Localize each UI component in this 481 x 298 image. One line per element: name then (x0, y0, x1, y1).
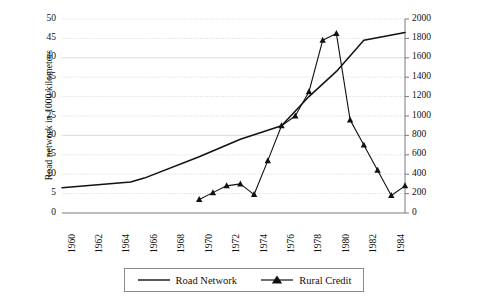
legend-triangle-swatch (260, 274, 294, 286)
left-tick-0: 0 (30, 207, 56, 217)
right-tick-200: 200 (412, 187, 442, 197)
x-tick-1970: 1970 (204, 234, 214, 253)
legend-label-road-network: Road Network (176, 275, 238, 286)
x-tick-1978: 1978 (313, 234, 323, 253)
legend-label-rural-credit: Rural Credit (299, 275, 351, 286)
left-tick-40: 40 (30, 51, 56, 61)
x-tick-1980: 1980 (341, 234, 351, 253)
left-tick-25: 25 (30, 110, 56, 120)
left-tick-45: 45 (30, 32, 56, 42)
legend-item-road-network[interactable]: Road Network (137, 274, 238, 286)
right-tick-1000: 1000 (412, 110, 442, 120)
right-tick-600: 600 (412, 148, 442, 158)
x-tick-1982: 1982 (368, 234, 378, 253)
left-tick-35: 35 (30, 71, 56, 81)
x-tick-1976: 1976 (286, 234, 296, 253)
plot-area (62, 19, 405, 213)
x-tick-1968: 1968 (176, 234, 186, 253)
x-tick-1972: 1972 (231, 234, 241, 253)
right-tick-2000: 2000 (412, 13, 442, 23)
x-tick-1966: 1966 (149, 234, 159, 253)
left-tick-15: 15 (30, 148, 56, 158)
legend-line-swatch (137, 274, 171, 286)
x-tick-1960: 1960 (67, 234, 77, 253)
series-road-network (62, 33, 405, 188)
left-tick-5: 5 (30, 187, 56, 197)
right-tick-1800: 1800 (412, 32, 442, 42)
x-tick-1962: 1962 (94, 234, 104, 253)
right-tick-1400: 1400 (412, 71, 442, 81)
chart-legend: Road Network Rural Credit (124, 268, 364, 292)
x-tick-1984: 1984 (396, 234, 406, 253)
left-tick-20: 20 (30, 129, 56, 139)
right-tick-400: 400 (412, 168, 442, 178)
x-tick-1964: 1964 (121, 234, 131, 253)
right-tick-1200: 1200 (412, 90, 442, 100)
x-tick-1974: 1974 (259, 234, 269, 253)
legend-item-rural-credit[interactable]: Rural Credit (260, 274, 351, 286)
left-tick-10: 10 (30, 168, 56, 178)
right-tick-800: 800 (412, 129, 442, 139)
left-tick-30: 30 (30, 90, 56, 100)
right-tick-0: 0 (412, 207, 442, 217)
left-tick-50: 50 (30, 13, 56, 23)
right-tick-1600: 1600 (412, 51, 442, 61)
plot-svg (62, 19, 405, 213)
chart-container: Road network in 1000 kilometers Rural Cr… (0, 0, 481, 298)
